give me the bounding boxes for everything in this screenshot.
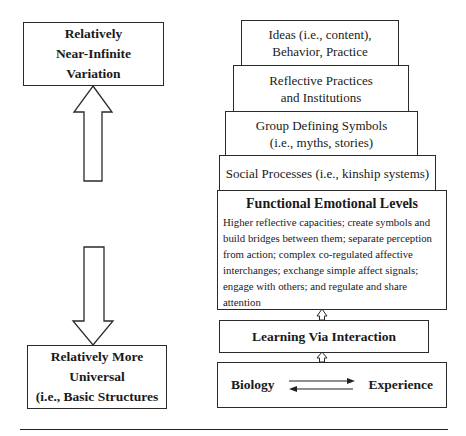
stack-box-reflective-practices: Reflective Practices and Institutions [233, 65, 409, 112]
small-up-arrow-icon [317, 352, 327, 362]
box-line: Group Defining Symbols [256, 117, 387, 134]
box-line: Reflective Practices [269, 72, 373, 89]
box-line: (i.e., myths, stories) [270, 134, 373, 151]
more-universal-box: Relatively More Universal (i.e., Basic S… [27, 345, 167, 409]
experience-label: Experience [369, 375, 433, 395]
box-line: Relatively More [51, 347, 143, 367]
box-line: Universal [69, 367, 125, 387]
stack-box-ideas: Ideas (i.e., content), Behavior, Practic… [241, 20, 399, 66]
functional-emotional-levels-box: Functional Emotional Levels Higher refle… [217, 190, 447, 310]
biology-label: Biology [231, 375, 275, 395]
box-line: Social Processes (i.e., kinship systems) [226, 165, 429, 182]
biology-experience-box: Biology Experience [217, 362, 447, 408]
box-line: Relatively [65, 24, 123, 44]
learning-via-interaction-box: Learning Via Interaction [219, 320, 429, 353]
box-line: Ideas (i.e., content), [268, 26, 371, 43]
small-up-arrow-icon [317, 309, 327, 320]
stack-box-social-processes: Social Processes (i.e., kinship systems) [219, 155, 436, 191]
bidirectional-arrows-icon [287, 375, 357, 395]
up-arrow-icon [74, 86, 112, 181]
near-infinite-variation-box: Relatively Near-Infinite Variation [23, 22, 164, 86]
box-line: Near-Infinite [56, 44, 131, 64]
down-arrow-icon [73, 247, 113, 345]
learning-label: Learning Via Interaction [252, 327, 396, 347]
box-line: (i.e., Basic Structures [36, 387, 158, 407]
box-line: Variation [66, 64, 120, 84]
box-line: Behavior, Practice [272, 43, 368, 60]
fel-title: Functional Emotional Levels [246, 194, 418, 214]
fel-body: Higher reflective capacities; create sym… [218, 214, 446, 310]
stack-box-group-symbols: Group Defining Symbols (i.e., myths, sto… [225, 111, 418, 156]
box-line: and Institutions [281, 89, 362, 106]
horizontal-rule [20, 429, 448, 430]
